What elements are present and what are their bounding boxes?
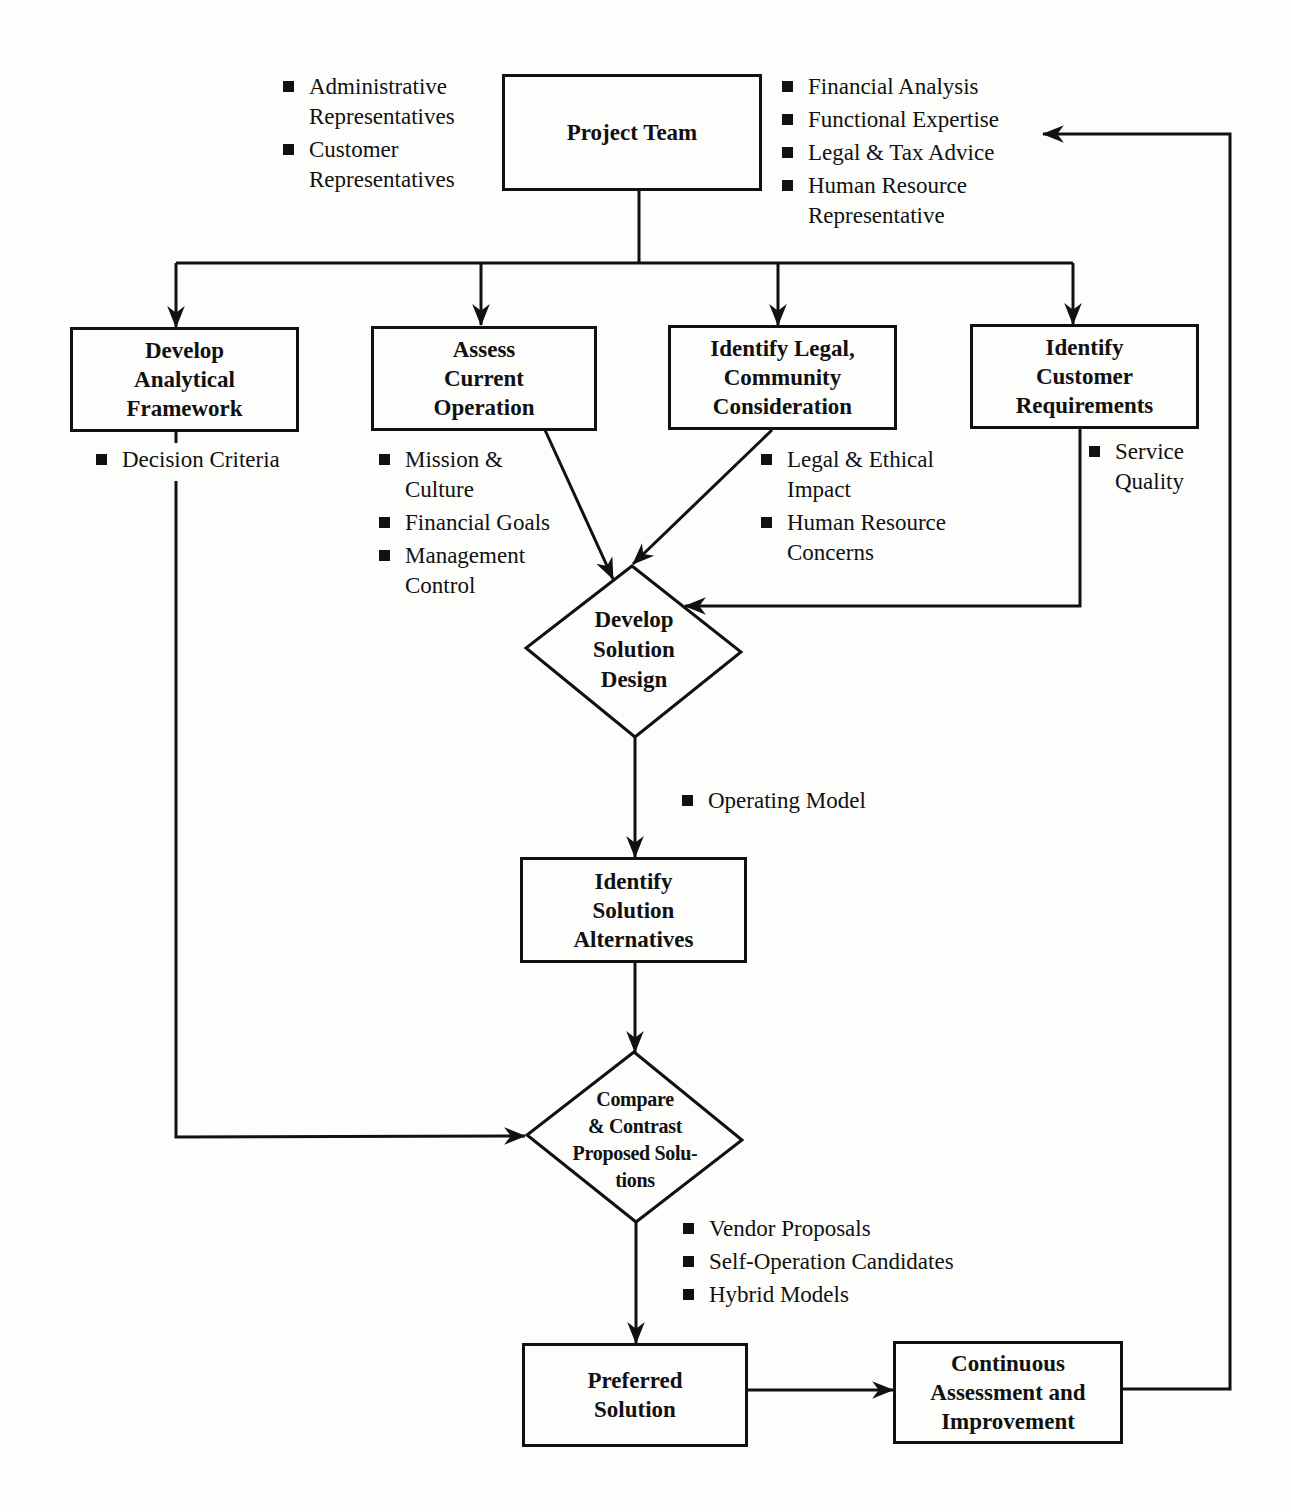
- bullet-item: Management Control: [377, 541, 550, 601]
- identify-legal-community-box: Identify Legal, Community Consideration: [668, 325, 897, 430]
- bullet-item: Legal & Tax Advice: [780, 138, 999, 168]
- node-line: Compare: [573, 1086, 698, 1113]
- node-line: Community: [710, 363, 854, 392]
- bullet-item: Financial Analysis: [780, 72, 999, 102]
- bullet-item: Service Quality: [1087, 437, 1184, 497]
- operation-notes: Mission & Culture Financial Goals Manage…: [377, 445, 550, 604]
- legal-notes: Legal & Ethical Impact Human Resource Co…: [759, 445, 946, 571]
- bullet-square-icon: [379, 454, 390, 465]
- compare-notes: Vendor Proposals Self-Operation Candidat…: [681, 1214, 954, 1313]
- project-team-left-notes: Administrative Representatives Customer …: [281, 72, 455, 198]
- node-line: Proposed Solu-: [573, 1140, 698, 1167]
- bullet-square-icon: [283, 144, 294, 155]
- bullet-item: Customer Representatives: [281, 135, 455, 195]
- identify-customer-requirements-box: Identify Customer Requirements: [970, 324, 1199, 429]
- node-line: Improvement: [930, 1407, 1085, 1436]
- node-line: Alternatives: [573, 925, 693, 954]
- bullet-item: Mission & Culture: [377, 445, 550, 505]
- bullet-square-icon: [379, 517, 390, 528]
- bullet-square-icon: [682, 795, 693, 806]
- node-line: Identify: [573, 867, 693, 896]
- bullet-square-icon: [1089, 446, 1100, 457]
- node-line: Operation: [434, 393, 535, 422]
- node-line: Customer: [1016, 362, 1154, 391]
- solution-design-notes: Operating Model: [680, 786, 866, 819]
- bullet-square-icon: [379, 550, 390, 561]
- project-team-label: Project Team: [567, 118, 698, 147]
- project-team-box: Project Team: [502, 74, 762, 191]
- bullet-item: Hybrid Models: [681, 1280, 954, 1310]
- node-line: Framework: [126, 394, 242, 423]
- node-line: Continuous: [930, 1349, 1085, 1378]
- customer-notes: Service Quality: [1087, 437, 1184, 500]
- continuous-assessment-box: Continuous Assessment and Improvement: [893, 1341, 1123, 1444]
- bullet-square-icon: [782, 147, 793, 158]
- bullet-item: Vendor Proposals: [681, 1214, 954, 1244]
- arrow-legal-to-design: [633, 430, 772, 564]
- node-line: Solution: [573, 896, 693, 925]
- bullet-item: Human Resource Concerns: [759, 508, 946, 568]
- develop-analytical-framework-box: Develop Analytical Framework: [70, 327, 299, 432]
- develop-solution-design-label: Develop Solution Design: [552, 600, 716, 700]
- node-line: & Contrast: [573, 1113, 698, 1140]
- bullet-item: Self-Operation Candidates: [681, 1247, 954, 1277]
- connector-layer: [0, 0, 1291, 1512]
- bullet-item: Operating Model: [680, 786, 866, 816]
- node-line: Consideration: [710, 392, 854, 421]
- bullet-square-icon: [761, 517, 772, 528]
- bullet-square-icon: [761, 454, 772, 465]
- bullet-square-icon: [683, 1289, 694, 1300]
- node-line: Solution: [588, 1395, 683, 1424]
- node-line: Design: [593, 665, 675, 695]
- compare-contrast-label: Compare & Contrast Proposed Solu- tions: [552, 1085, 718, 1195]
- arrow-feedback-to-team: [1043, 134, 1230, 1389]
- bullet-square-icon: [96, 454, 107, 465]
- bullet-item: Functional Expertise: [780, 105, 999, 135]
- node-line: Assess: [434, 335, 535, 364]
- node-line: Analytical: [126, 365, 242, 394]
- node-line: Assessment and: [930, 1378, 1085, 1407]
- bullet-square-icon: [782, 114, 793, 125]
- node-line: Current: [434, 364, 535, 393]
- bullet-square-icon: [283, 81, 294, 92]
- identify-solution-alternatives-box: Identify Solution Alternatives: [520, 857, 747, 963]
- bullet-square-icon: [683, 1223, 694, 1234]
- framework-notes: Decision Criteria: [94, 445, 280, 478]
- node-line: tions: [573, 1167, 698, 1194]
- node-line: Solution: [593, 635, 675, 665]
- bullet-square-icon: [683, 1256, 694, 1267]
- node-line: Develop: [593, 605, 675, 635]
- node-line: Identify Legal,: [710, 334, 854, 363]
- bullet-square-icon: [782, 81, 793, 92]
- node-line: Identify: [1016, 333, 1154, 362]
- bullet-square-icon: [782, 180, 793, 191]
- preferred-solution-box: Preferred Solution: [522, 1343, 748, 1447]
- node-line: Develop: [126, 336, 242, 365]
- bullet-item: Financial Goals: [377, 508, 550, 538]
- bullet-item: Decision Criteria: [94, 445, 280, 475]
- bullet-item: Legal & Ethical Impact: [759, 445, 946, 505]
- project-team-right-notes: Financial Analysis Functional Expertise …: [780, 72, 999, 234]
- node-line: Requirements: [1016, 391, 1154, 420]
- assess-current-operation-box: Assess Current Operation: [371, 326, 597, 431]
- bullet-item: Human Resource Representative: [780, 171, 999, 231]
- arrow-operation-to-design: [545, 430, 613, 579]
- node-line: Preferred: [588, 1366, 683, 1395]
- bullet-item: Administrative Representatives: [281, 72, 455, 132]
